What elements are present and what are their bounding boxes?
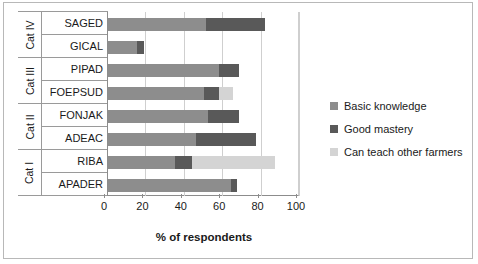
legend-label-can-teach: Can teach other farmers: [344, 146, 463, 158]
bar-row-saged[interactable]: [108, 18, 265, 31]
series-label-foepsud: FOEPSUD: [42, 80, 108, 103]
x-tick-60: [219, 194, 220, 198]
bar-segment-apader-basic-knowledge[interactable]: [108, 179, 231, 192]
x-tick-label-40: 40: [161, 200, 201, 212]
category-group-cat-iv: Cat IV SAGED GICAL: [18, 11, 108, 57]
bar-segment-pipad-good-mastery[interactable]: [219, 64, 238, 77]
legend-swatch-can-teach: [330, 148, 338, 156]
series-label-fonjak: FONJAK: [42, 104, 108, 126]
x-axis-title: % of respondents: [64, 231, 344, 243]
chart-frame: Cat IV SAGED GICAL Cat III PIPAD FOEPSUD…: [3, 2, 473, 259]
category-label-table: Cat IV SAGED GICAL Cat III PIPAD FOEPSUD…: [18, 11, 108, 196]
bar-segment-saged-good-mastery[interactable]: [206, 18, 266, 31]
bar-segment-gical-basic-knowledge[interactable]: [108, 41, 137, 54]
legend-label-basic-knowledge: Basic knowledge: [344, 100, 427, 112]
x-tick-0: [104, 194, 105, 198]
series-label-gical: GICAL: [42, 34, 108, 57]
bar-row-foepsud[interactable]: [108, 87, 233, 100]
category-group-cat-iii: Cat III PIPAD FOEPSUD: [18, 57, 108, 103]
x-tick-label-60: 60: [199, 200, 239, 212]
bar-row-riba[interactable]: [108, 156, 275, 169]
bar-segment-fonjak-basic-knowledge[interactable]: [108, 110, 208, 123]
series-label-adeac: ADEAC: [42, 126, 108, 149]
bar-segment-foepsud-basic-knowledge[interactable]: [108, 87, 204, 100]
x-tick-40: [181, 194, 182, 198]
legend-swatch-basic-knowledge: [330, 102, 338, 110]
category-label-cat-iv: Cat IV: [18, 12, 42, 57]
bar-segment-pipad-basic-knowledge[interactable]: [108, 64, 219, 77]
legend-item-good-mastery: Good mastery: [330, 123, 478, 135]
category-label-cat-i: Cat I: [18, 150, 42, 195]
x-tick-20: [142, 194, 143, 198]
category-group-cat-ii: Cat II FONJAK ADEAC: [18, 103, 108, 149]
gridline-100: [299, 12, 300, 196]
bar-segment-foepsud-good-mastery[interactable]: [204, 87, 219, 100]
legend-item-basic-knowledge: Basic knowledge: [330, 100, 478, 112]
bar-segment-saged-basic-knowledge[interactable]: [108, 18, 206, 31]
bar-segment-riba-good-mastery[interactable]: [175, 156, 192, 169]
bar-row-fonjak[interactable]: [108, 110, 239, 123]
category-label-cat-iii: Cat III: [18, 58, 42, 103]
bar-row-apader[interactable]: [108, 179, 237, 192]
plot-area: [107, 12, 299, 196]
bar-segment-riba-basic-knowledge[interactable]: [108, 156, 175, 169]
x-tick-label-20: 20: [122, 200, 162, 212]
bar-segment-adeac-good-mastery[interactable]: [196, 133, 256, 146]
x-tick-label-80: 80: [238, 200, 278, 212]
bar-row-adeac[interactable]: [108, 133, 256, 146]
bar-row-gical[interactable]: [108, 41, 144, 54]
bar-segment-foepsud-can-teach-other-farmers[interactable]: [219, 87, 232, 100]
series-label-apader: APADER: [42, 172, 108, 195]
bar-segment-fonjak-good-mastery[interactable]: [208, 110, 239, 123]
legend-swatch-good-mastery: [330, 125, 338, 133]
category-label-cat-ii: Cat II: [18, 104, 42, 149]
bar-segment-adeac-basic-knowledge[interactable]: [108, 133, 196, 146]
legend-item-can-teach: Can teach other farmers: [330, 146, 478, 158]
x-tick-label-0: 0: [84, 200, 124, 212]
series-label-saged: SAGED: [42, 12, 108, 34]
bar-segment-riba-can-teach-other-farmers[interactable]: [192, 156, 275, 169]
bar-segment-apader-good-mastery[interactable]: [231, 179, 237, 192]
series-label-pipad: PIPAD: [42, 58, 108, 80]
series-label-riba: RIBA: [42, 150, 108, 172]
x-tick-100: [296, 194, 297, 198]
x-tick-label-100: 100: [276, 200, 316, 212]
bar-segment-gical-good-mastery[interactable]: [137, 41, 145, 54]
legend-label-good-mastery: Good mastery: [344, 123, 413, 135]
x-tick-80: [258, 194, 259, 198]
bar-row-pipad[interactable]: [108, 64, 239, 77]
category-group-cat-i: Cat I RIBA APADER: [18, 149, 108, 196]
chart-legend: Basic knowledge Good mastery Can teach o…: [330, 100, 478, 169]
